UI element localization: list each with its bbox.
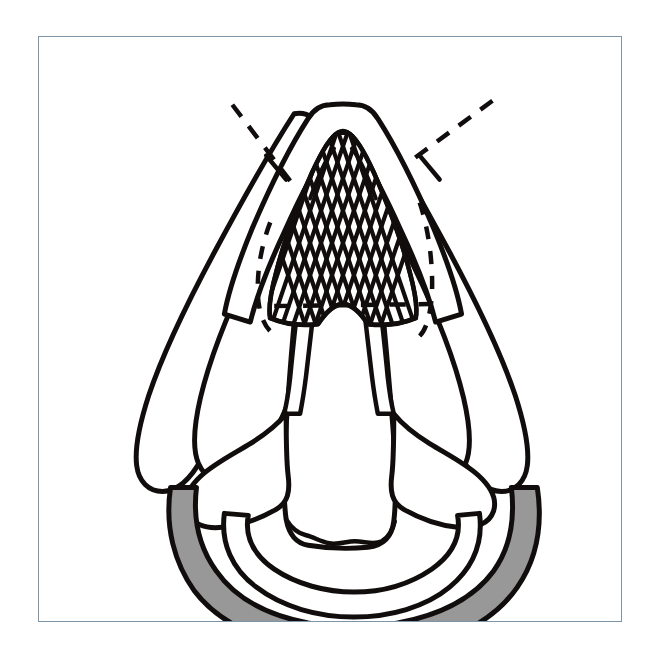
dashed-indicator-right	[410, 101, 493, 162]
anatomical-diagram-canvas	[39, 37, 621, 621]
figure-frame-border	[38, 36, 622, 622]
figure-root: Superior laryngoscopic view of the laryn…	[0, 0, 655, 653]
tick-mark-right	[420, 156, 440, 180]
